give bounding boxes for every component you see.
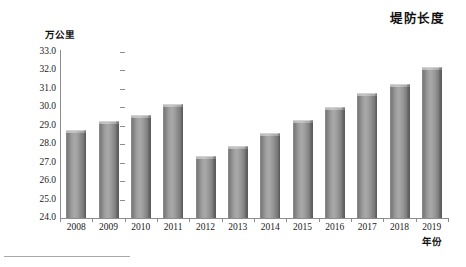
x-axis-tick-label: 2010 [125, 221, 157, 233]
x-axis-title: 年份 [416, 234, 448, 248]
bar-2019 [422, 70, 442, 218]
y-axis-tick-label: 32.0 [39, 64, 56, 75]
x-axis-tick-label: 2009 [92, 221, 124, 233]
y-axis-tick-label: 27.0 [39, 157, 56, 168]
y-axis-tick-label: 28.0 [39, 138, 56, 149]
x-axis-tick-label: 2015 [286, 221, 318, 233]
bar-2008 [66, 133, 86, 218]
x-axis-tick-label: 2019 [416, 221, 448, 233]
bar-2011 [163, 107, 183, 218]
bar-2010 [131, 118, 151, 218]
x-axis-tick-label: 2008 [60, 221, 92, 233]
x-axis-tick-mark [448, 218, 449, 222]
y-axis-tick-label: 25.0 [39, 194, 56, 205]
x-axis-tick-label: 2018 [383, 221, 415, 233]
y-axis-tick-label: 29.0 [39, 120, 56, 131]
x-axis-tick-label: 2011 [157, 221, 189, 233]
plot-area [60, 52, 448, 218]
y-axis-tick-label: 30.0 [39, 101, 56, 112]
bar-2009 [99, 124, 119, 218]
x-axis-tick-label: 2016 [319, 221, 351, 233]
bar-2014 [260, 136, 280, 218]
bar-2012 [196, 159, 216, 218]
bar-2013 [228, 149, 248, 218]
x-axis-tick-label: 2017 [351, 221, 383, 233]
x-axis-tick-label: 2014 [254, 221, 286, 233]
x-axis-tick-label: 2012 [189, 221, 221, 233]
bar-2015 [293, 123, 313, 218]
y-axis-unit-label: 万公里 [45, 27, 75, 41]
y-axis-tick-label: 26.0 [39, 175, 56, 186]
y-axis-tick-label: 33.0 [39, 46, 56, 57]
x-axis-tick-label: 2013 [222, 221, 254, 233]
bar-2018 [390, 87, 410, 218]
chart-title: 堤防长度 [390, 8, 444, 27]
y-axis-tick-label: 24.0 [39, 212, 56, 223]
bar-2016 [325, 110, 345, 218]
bar-2017 [357, 96, 377, 218]
chart-figure: 堤防长度 万公里 33.032.031.030.029.028.027.026.… [0, 0, 466, 267]
footnote-separator [4, 256, 130, 257]
y-axis-tick-label: 31.0 [39, 83, 56, 94]
